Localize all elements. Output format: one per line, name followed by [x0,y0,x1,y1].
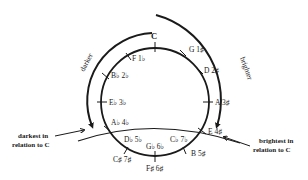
key-label-G-flat: G♭ 6♭ [146,142,164,151]
key-label-C: C [151,31,157,41]
circle-of-fifths-diagram: darker brighter [0,0,308,180]
key-label-E: E 4♯ [208,127,222,136]
darker-label: darker [78,51,95,73]
key-label-B-flat: B♭ 2♭ [111,71,129,80]
darkest-pointer-arrow [55,130,84,136]
brightest-note-line1: brightest in [259,137,294,145]
key-label-C-sharp: C♯ 7♯ [113,155,131,164]
brighter-label: brighter [238,56,255,82]
darkest-note-line1: darkest in [18,132,48,140]
key-label-D: D 2♯ [204,66,219,75]
key-label-G: G 1♯ [189,45,204,54]
key-label-F: F 1♭ [132,54,145,63]
key-label-B: B 5♯ [191,149,206,158]
key-label-C-flat: C♭ 7♭ [170,135,188,144]
key-label-D-flat: D♭ 5♭ [124,135,142,144]
key-label-E-flat: E♭ 3♭ [109,98,126,107]
key-label-F-sharp: F♯ 6♯ [146,164,164,173]
brightest-note-line2: relation to C [253,146,291,154]
key-label-A: A 3♯ [215,98,230,107]
brightest-pointer-arrow [224,137,250,146]
key-label-A-flat: A♭ 4♭ [111,118,129,127]
darkest-note-line2: relation to C [12,141,50,149]
